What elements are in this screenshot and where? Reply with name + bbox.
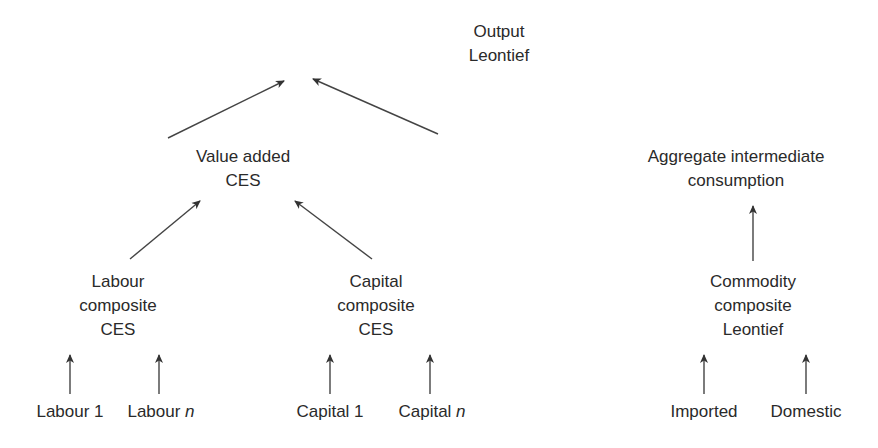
node-commodity-composite: Commodity composite Leontief (710, 270, 796, 342)
node-output: Output Leontief (469, 20, 530, 68)
node-capital-line3: CES (337, 318, 414, 342)
node-value-added-line2: CES (196, 169, 290, 193)
leaf-capital-1: Capital 1 (296, 401, 363, 423)
node-capital-line2: composite (337, 294, 414, 318)
node-value-added: Value added CES (196, 145, 290, 193)
node-aggregate-line1: Aggregate intermediate (648, 145, 825, 169)
leaf-labour-n: Labour n (127, 401, 194, 423)
leaf-imported: Imported (670, 401, 737, 423)
node-capital-composite: Capital composite CES (337, 270, 414, 342)
node-commodity-line2: composite (710, 294, 796, 318)
edges-layer (0, 0, 878, 448)
node-aggregate-intermediate: Aggregate intermediate consumption (648, 145, 825, 193)
node-output-line2: Leontief (469, 44, 530, 68)
edge-value-added-to-output (168, 81, 284, 138)
node-aggregate-line2: consumption (648, 169, 825, 193)
node-value-added-line1: Value added (196, 145, 290, 169)
node-labour-composite: Labour composite CES (79, 270, 156, 342)
node-labour-line3: CES (79, 318, 156, 342)
node-commodity-line1: Commodity (710, 270, 796, 294)
leaf-capital-n: Capital n (398, 401, 465, 423)
node-commodity-line3: Leontief (710, 318, 796, 342)
edge-labour-composite-to-value-added (130, 201, 200, 259)
node-labour-line2: composite (79, 294, 156, 318)
leaf-labour-1: Labour 1 (36, 401, 103, 423)
node-capital-line1: Capital (337, 270, 414, 294)
leaf-domestic: Domestic (771, 401, 842, 423)
node-labour-line1: Labour (79, 270, 156, 294)
node-output-line1: Output (469, 20, 530, 44)
edge-intermediate-to-output (313, 79, 438, 134)
edge-capital-composite-to-value-added (295, 201, 372, 259)
nesting-tree-diagram: Output Leontief Value added CES Aggregat… (0, 0, 878, 448)
